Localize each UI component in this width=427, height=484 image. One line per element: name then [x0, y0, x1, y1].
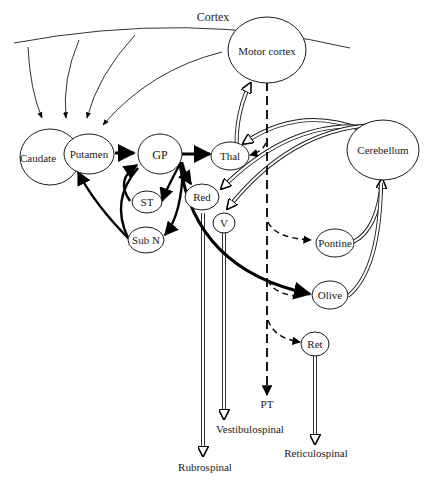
- rubrospinal-label: Rubrospinal: [178, 461, 232, 473]
- caudate-label: Caudate: [20, 152, 56, 164]
- motor-cortex-to-pontine-dashed: [268, 222, 311, 240]
- gp-node: GP: [138, 134, 182, 174]
- gp-label: GP: [152, 148, 168, 162]
- motor-cortex-to-ret-dashed: [268, 320, 300, 342]
- cortex-to-caudate2-arrow: [65, 40, 79, 118]
- st-label: ST: [141, 196, 154, 208]
- reticulospinal-label: Reticulospinal: [284, 447, 348, 459]
- olive-node: Olive: [312, 281, 348, 309]
- sub-n-node: Sub N: [128, 227, 164, 253]
- motor-system-diagram: Cortex: [0, 0, 427, 484]
- v-node: V: [213, 213, 235, 233]
- olive-label: Olive: [318, 289, 343, 301]
- pt-label: PT: [261, 398, 274, 410]
- st-node: ST: [132, 191, 162, 213]
- cerebellum-label: Cerebellum: [357, 144, 409, 156]
- cerebellum-to-thal-pathway: [244, 120, 362, 143]
- cortex-to-caudate-arrow: [28, 47, 42, 118]
- ret-node: Ret: [301, 332, 329, 356]
- motor-cortex-to-putamen-arrow: [103, 52, 222, 125]
- cortical-inputs: [28, 35, 222, 125]
- sub-n-label: Sub N: [132, 234, 160, 246]
- red-node: Red: [185, 184, 219, 210]
- putamen-label: Putamen: [70, 148, 109, 160]
- red-label: Red: [193, 191, 211, 203]
- motor-cortex-node: Motor cortex: [228, 17, 306, 83]
- thick-pathways: [78, 153, 310, 294]
- gp-to-olive-arrow: [180, 164, 310, 294]
- thal-label: Thal: [220, 150, 240, 162]
- v-label: V: [220, 217, 228, 229]
- cortex-label: Cortex: [197, 10, 230, 24]
- ret-label: Ret: [307, 338, 322, 350]
- motor-cortex-label: Motor cortex: [238, 45, 296, 57]
- pontine-node: Pontine: [316, 229, 354, 257]
- cerebellum-node: Cerebellum: [347, 120, 419, 180]
- cortex-to-putamen-arrow: [87, 35, 135, 118]
- nodes: Motor cortex Caudate Putamen GP Thal Cer…: [20, 17, 419, 356]
- putamen-node: Putamen: [64, 134, 114, 174]
- vestibulospinal-label: Vestibulospinal: [216, 423, 284, 435]
- thal-node: Thal: [211, 142, 249, 170]
- pontine-label: Pontine: [318, 237, 352, 249]
